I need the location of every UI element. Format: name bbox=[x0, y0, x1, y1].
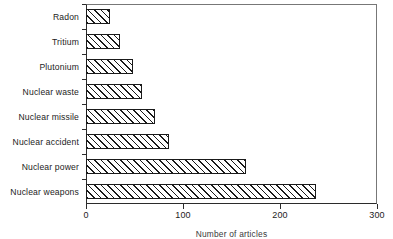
x-axis-tick-2 bbox=[280, 204, 281, 209]
category-label-7: Nuclear weapons bbox=[0, 187, 79, 197]
y-axis-tick-3 bbox=[82, 79, 86, 80]
x-axis-tick-3 bbox=[377, 204, 378, 209]
y-axis-tick-1 bbox=[82, 29, 86, 30]
category-label-2: Plutonium bbox=[0, 62, 79, 72]
category-label-0: Radon bbox=[0, 12, 79, 22]
y-axis-tick-7 bbox=[82, 179, 86, 180]
x-axis-tick-0 bbox=[86, 204, 87, 209]
category-label-1: Tritium bbox=[0, 37, 79, 47]
y-axis-tick-0 bbox=[82, 4, 86, 5]
bar-3 bbox=[86, 84, 142, 99]
category-label-4: Nuclear missile bbox=[0, 112, 79, 122]
bar-6 bbox=[86, 159, 246, 174]
x-axis-tick-label-0: 0 bbox=[83, 210, 88, 220]
bar-7 bbox=[86, 184, 316, 199]
x-axis-title: Number of articles bbox=[86, 229, 377, 239]
y-axis-tick-2 bbox=[82, 54, 86, 55]
bar-5 bbox=[86, 134, 169, 149]
x-axis-tick-1 bbox=[183, 204, 184, 209]
bar-1 bbox=[86, 34, 120, 49]
category-label-5: Nuclear accident bbox=[0, 137, 79, 147]
bar-chart-figure: RadonTritiumPlutoniumNuclear wasteNuclea… bbox=[0, 0, 393, 239]
y-axis-category-labels: RadonTritiumPlutoniumNuclear wasteNuclea… bbox=[0, 4, 83, 204]
x-axis-tick-label-2: 200 bbox=[272, 210, 288, 220]
y-axis-tick-6 bbox=[82, 154, 86, 155]
x-axis-tick-label-3: 300 bbox=[369, 210, 385, 220]
bar-4 bbox=[86, 109, 155, 124]
bar-2 bbox=[86, 59, 133, 74]
category-label-6: Nuclear power bbox=[0, 162, 79, 172]
bars-layer bbox=[86, 4, 377, 204]
y-axis-tick-4 bbox=[82, 104, 86, 105]
y-axis-tick-5 bbox=[82, 129, 86, 130]
bar-0 bbox=[86, 9, 110, 24]
x-axis-tick-label-1: 100 bbox=[175, 210, 191, 220]
category-label-3: Nuclear waste bbox=[0, 87, 79, 97]
